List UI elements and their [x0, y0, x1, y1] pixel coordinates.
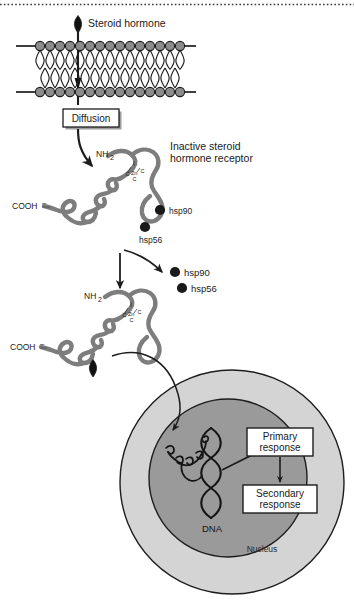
- cooh-label-2: COOH: [10, 342, 36, 352]
- zinc-c-right-label: C: [141, 168, 145, 174]
- hsp56-particle-icon: [140, 222, 150, 232]
- cooh-terminus-1: COOH –: [12, 198, 50, 211]
- hsp90-free-label: hsp90: [184, 267, 210, 278]
- nucleus-label: Nucleus: [247, 544, 278, 554]
- zinc-zn-label: Zn: [131, 170, 137, 176]
- primary-response-box: Primary response: [247, 428, 313, 456]
- dna-label: DNA: [202, 523, 223, 534]
- secondary-response-line2: response: [259, 499, 301, 510]
- activated-receptor-complex: C Zn C C NH 2 COOH –: [10, 291, 160, 377]
- hsp90-free-particle-icon: [170, 267, 180, 277]
- hsp90-particle-icon: [155, 205, 165, 215]
- plasma-membrane: [16, 41, 196, 96]
- cooh-terminus-2: COOH –: [10, 339, 47, 352]
- primary-response-line2: response: [259, 442, 301, 453]
- lipid-tails-upper: [36, 50, 184, 70]
- hsp90-label: hsp90: [169, 206, 192, 216]
- diffusion-label: Diffusion: [72, 113, 111, 124]
- zinc-c-right-label-2: C: [138, 309, 142, 315]
- steroid-hormone-group: Steroid hormone: [74, 16, 165, 34]
- nucleus-group: Nucleus: [120, 370, 344, 594]
- secondary-response-line1: Secondary: [256, 488, 304, 499]
- zinc-c-bottom-label: C: [133, 176, 137, 182]
- hsp56-free-particle-icon: [177, 283, 187, 293]
- nh2-subscript: 2: [110, 154, 114, 161]
- nuclear-envelope: [149, 399, 307, 557]
- zinc-c-left-label-2: C: [123, 312, 127, 318]
- receptor-ribbon-1: [44, 150, 163, 224]
- nh2-terminus-2: NH 2: [84, 291, 102, 303]
- zinc-c-left-label: C: [126, 171, 130, 177]
- arrow-hsp-release: [124, 250, 162, 272]
- nh2-label: NH: [96, 149, 108, 159]
- lipid-heads-lower: [35, 87, 184, 96]
- lipid-tails-lower: [41, 68, 179, 88]
- inactive-receptor-line2: hormone receptor: [170, 152, 253, 164]
- secondary-response-box: Secondary response: [243, 485, 317, 513]
- bound-heat-shock-proteins: hsp90 hsp56: [139, 205, 192, 245]
- lipid-heads-upper: [35, 41, 184, 50]
- diffusion-box: Diffusion: [63, 109, 122, 130]
- inactive-receptor-caption: Inactive steroid hormone receptor: [170, 140, 253, 164]
- arrow-icon: [124, 250, 162, 272]
- cooh-label: COOH: [12, 201, 38, 211]
- hsp56-free-label: hsp56: [191, 283, 217, 294]
- arrow-to-receptor-1: [78, 129, 92, 166]
- primary-response-line1: Primary: [263, 431, 297, 442]
- hsp56-label: hsp56: [139, 235, 162, 245]
- steroid-hormone-diagram: Steroid hormone: [0, 0, 354, 604]
- diagram-canvas: Steroid hormone: [0, 0, 354, 604]
- nh2-terminus-1: NH 2: [96, 149, 114, 161]
- zinc-zn-label-2: Zn: [128, 311, 134, 317]
- inactive-receptor-line1: Inactive steroid: [170, 140, 241, 152]
- nh2-subscript-2: 2: [98, 296, 102, 303]
- steroid-hormone-label: Steroid hormone: [88, 17, 166, 29]
- released-heat-shock-proteins: hsp90 hsp56: [170, 267, 217, 294]
- inactive-receptor-complex: C Zn C C NH 2 COOH – hsp90 hsp56: [12, 149, 192, 245]
- zinc-c-bottom-label-2: C: [130, 317, 134, 323]
- arrow-icon: [78, 129, 92, 166]
- nh2-label-2: NH: [84, 291, 96, 301]
